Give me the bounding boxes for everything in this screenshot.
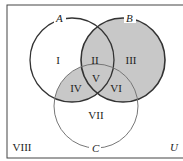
set-b-label: B	[126, 12, 133, 24]
region-viii: VIII	[13, 141, 32, 153]
universe-label: U	[170, 141, 179, 153]
region-v: V	[92, 72, 100, 84]
region-vi: VI	[110, 82, 122, 94]
region-i: I	[56, 54, 60, 66]
set-c-label: C	[92, 142, 100, 154]
venn-diagram: A B C U I II III IV V VI VII VIII	[0, 0, 183, 161]
set-a-label: A	[55, 12, 63, 24]
region-iii: III	[126, 54, 137, 66]
region-iv: IV	[70, 82, 82, 94]
region-vii: VII	[88, 109, 104, 121]
region-ii: II	[91, 54, 99, 66]
